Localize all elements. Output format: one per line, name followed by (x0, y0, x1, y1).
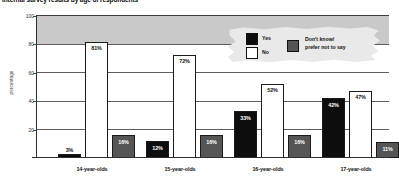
bar-label-14-yes: 3% (66, 147, 74, 153)
x-category-16-year-olds: 16-year-olds (228, 166, 308, 172)
chart-title: Internal survey results by age of respon… (2, 0, 138, 4)
bar-label-17-no: 47% (355, 94, 366, 100)
bar-14-dk[interactable]: 16% (112, 135, 135, 158)
y-tick-80: 80 (14, 41, 34, 47)
bar-label-16-dk: 16% (294, 139, 305, 145)
y-tick-20: 20 (14, 127, 34, 133)
bar-group-15-year-olds: 12% 72% 16% (140, 15, 220, 158)
bar-15-no[interactable]: 72% (173, 55, 196, 158)
legend-label-no: No (262, 49, 269, 55)
bar-label-15-dk: 16% (206, 139, 217, 145)
bar-16-dk[interactable]: 16% (288, 135, 311, 158)
legend-swatch-no (246, 47, 258, 59)
bar-label-16-yes: 33% (240, 115, 251, 121)
bar-17-yes[interactable]: 42% (322, 98, 345, 158)
x-category-14-year-olds: 14-year-olds (52, 166, 132, 172)
legend-label-dont-know-line1: Don't know/ (305, 36, 334, 42)
y-tick-60: 60 (14, 70, 34, 76)
y-tick-40: 40 (14, 98, 34, 104)
y-axis-line (36, 15, 37, 158)
bar-label-17-dk: 11% (382, 146, 392, 152)
legend: Yes No Don't know/ prefer not to say (228, 26, 380, 63)
bar-14-no[interactable]: 81% (85, 42, 108, 158)
bar-label-17-yes: 42% (328, 102, 339, 108)
legend-label-yes: Yes (262, 35, 271, 41)
bar-group-14-year-olds: 3% 81% 16% (52, 15, 132, 158)
x-axis-line (32, 157, 389, 159)
bar-label-15-no: 72% (179, 58, 190, 64)
bar-16-no[interactable]: 52% (261, 84, 284, 158)
legend-label-dont-know-line2: prefer not to say (305, 44, 346, 50)
bar-17-no[interactable]: 47% (349, 91, 372, 158)
bar-16-yes[interactable]: 33% (234, 111, 257, 158)
y-tick-100: 100 (14, 13, 34, 19)
legend-swatch-yes (246, 33, 258, 45)
legend-swatch-dont-know (287, 40, 299, 52)
bar-15-yes[interactable]: 12% (146, 141, 169, 158)
y-axis-label: percentage (9, 53, 14, 113)
bar-label-14-dk: 16% (118, 139, 129, 145)
bar-15-dk[interactable]: 16% (200, 135, 223, 158)
bar-label-15-yes: 12% (152, 145, 163, 151)
x-category-15-year-olds: 15-year-olds (140, 166, 220, 172)
x-category-17-year-olds: 17-year-olds (316, 166, 396, 172)
bar-label-16-no: 52% (267, 87, 278, 93)
bar-label-14-no: 81% (91, 45, 102, 51)
